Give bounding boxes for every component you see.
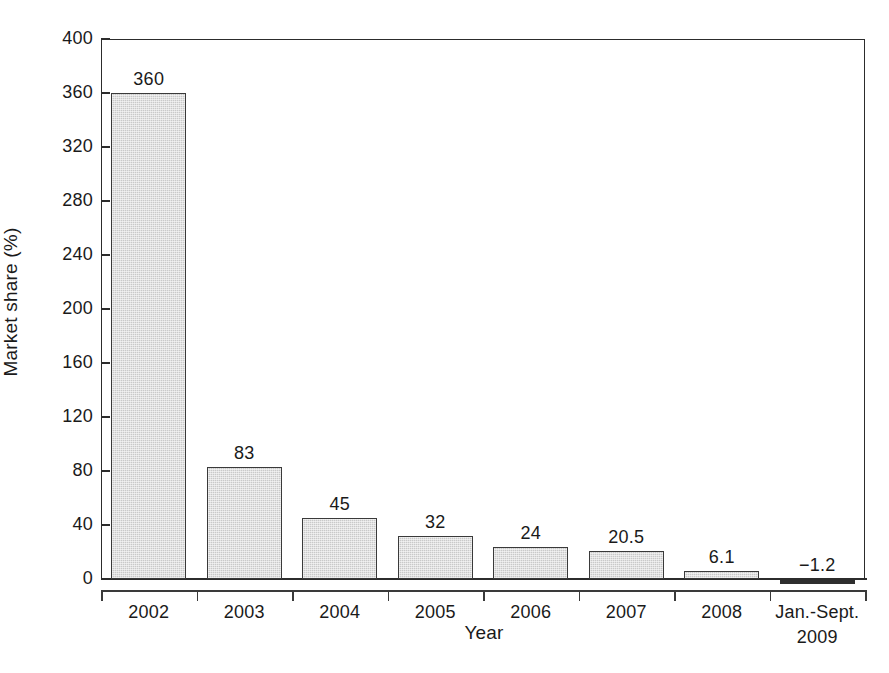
y-tick-mark	[101, 308, 110, 310]
bar-2002	[111, 93, 186, 579]
x-category-label-line: 2002	[128, 602, 169, 622]
y-tick-mark	[101, 92, 110, 94]
y-tick-mark	[101, 254, 110, 256]
x-category-label-line: 2003	[224, 602, 265, 622]
value-label-2002: 360	[101, 69, 197, 89]
value-label-2005: 32	[388, 512, 484, 532]
y-tick-label: 40	[0, 513, 93, 535]
bar-jan-sept-2009	[780, 580, 855, 584]
value-label-2003: 83	[197, 443, 293, 463]
value-label-2007: 20.5	[579, 527, 675, 547]
y-tick-mark	[101, 38, 110, 40]
bar-2008	[684, 571, 759, 579]
value-label-2008: 6.1	[674, 547, 770, 567]
bar-2006	[493, 547, 568, 579]
y-tick-label: 400	[0, 27, 93, 49]
y-tick-label: 360	[0, 81, 93, 103]
x-category-label-line: 2007	[606, 602, 647, 622]
bar-2003	[207, 467, 282, 579]
y-tick-label: 320	[0, 135, 93, 157]
value-label-jan-sept-2009: −1.2	[770, 555, 866, 575]
y-tick-label: 280	[0, 189, 93, 211]
bar-2007	[589, 551, 664, 579]
y-tick-label: 240	[0, 243, 93, 265]
y-tick-label: 80	[0, 459, 93, 481]
y-tick-label: 160	[0, 351, 93, 373]
x-category-label-line: Jan.-Sept.	[775, 602, 859, 622]
y-tick-mark	[101, 524, 110, 526]
value-label-2006: 24	[483, 523, 579, 543]
x-category-label-line: 2005	[415, 602, 456, 622]
x-axis-title: Year	[101, 622, 867, 644]
y-tick-mark	[101, 470, 110, 472]
bar-2004	[302, 518, 377, 579]
y-tick-mark	[101, 362, 110, 364]
x-category-label-line: 2006	[510, 602, 551, 622]
y-tick-mark	[101, 416, 110, 418]
bar-chart-figure: Market share (%) 04080120160200240280320…	[0, 0, 889, 673]
y-tick-label: 200	[0, 297, 93, 319]
y-tick-label: 0	[0, 567, 93, 589]
y-tick-label: 120	[0, 405, 93, 427]
bar-2005	[398, 536, 473, 579]
y-tick-mark	[101, 200, 110, 202]
y-tick-mark	[101, 146, 110, 148]
x-category-label-line: 2004	[319, 602, 360, 622]
x-category-label-line: 2008	[701, 602, 742, 622]
y-tick-mark	[101, 578, 110, 580]
value-label-2004: 45	[292, 494, 388, 514]
